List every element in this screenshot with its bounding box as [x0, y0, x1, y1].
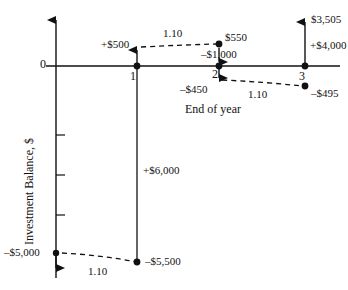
label-rate-top: 1.10: [163, 28, 182, 39]
x-axis-label: End of year: [185, 103, 241, 115]
origin-label: 0: [40, 58, 46, 70]
label-balance-year2-positive: $550: [225, 32, 247, 43]
label-balance-year2-negative: –$450: [180, 84, 208, 95]
year-tick-3: 3: [299, 70, 305, 82]
y-axis-ticks: [56, 135, 65, 215]
label-flow-year1: +$6,000: [143, 165, 179, 176]
diagram-canvas: [0, 0, 348, 290]
label-rate-lower-right: 1.10: [248, 89, 267, 100]
flow-year3-receipt: [302, 22, 309, 69]
label-payment-year2: –$1,000: [201, 49, 237, 60]
year-tick-1: 1: [130, 70, 136, 82]
year-tick-2: 2: [212, 68, 218, 80]
growth-curve-top: [141, 41, 222, 48]
label-deposit-year0: –$5,000: [4, 247, 40, 258]
label-flow-year3: +$4,000: [310, 40, 346, 51]
growth-curve-bottom: [62, 253, 137, 262]
flow-year1-sixthousand: [134, 63, 141, 266]
label-final-balance: $3,505: [311, 14, 341, 25]
label-balance-year3-negative: –$495: [311, 88, 339, 99]
label-balance-year1-negative: –$5,500: [145, 256, 181, 267]
y-axis-label: Investment Balance, $: [22, 138, 37, 245]
cash-flow-diagram: 0 Investment Balance, $ End of year 1 2 …: [0, 0, 348, 290]
label-receipt-year1: +$500: [101, 39, 129, 50]
flow-year0-deposit: [53, 250, 59, 268]
label-rate-bottom: 1.10: [88, 266, 107, 277]
